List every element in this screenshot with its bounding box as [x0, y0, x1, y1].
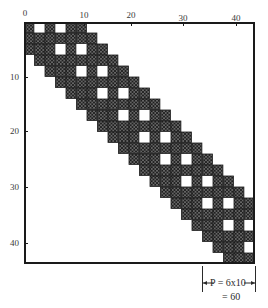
- bandwidth-annotation-line2: = 60: [222, 292, 240, 302]
- x-tick-label-10: 10: [80, 11, 89, 20]
- y-tick-mark: [24, 77, 28, 78]
- x-tick-mark: [183, 22, 184, 26]
- x-tick-mark: [131, 22, 132, 26]
- x-tick-mark: [84, 22, 85, 26]
- y-tick-label-20: 20: [10, 127, 19, 136]
- x-tick-mark: [236, 22, 237, 26]
- y-tick-label-40: 40: [10, 239, 19, 248]
- matrix-frame: [24, 22, 255, 264]
- y-tick-mark: [24, 187, 28, 188]
- y-tick-label-30: 30: [10, 183, 19, 192]
- y-tick-mark: [24, 131, 28, 132]
- x-tick-label-20: 20: [127, 11, 136, 20]
- y-tick-label-10: 10: [10, 73, 19, 82]
- bandwidth-annotation-line1: P = 6x10: [210, 278, 246, 288]
- x-tick-label-0: 0: [23, 9, 28, 18]
- y-tick-mark: [24, 243, 28, 244]
